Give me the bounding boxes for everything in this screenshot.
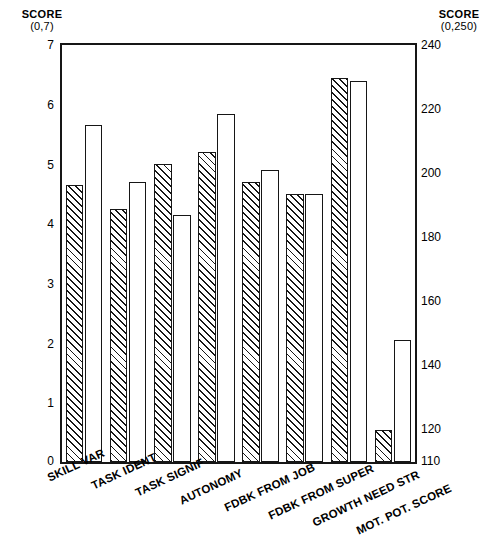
- bar-fdbk-from-job-white: [261, 170, 279, 462]
- right-axis-line: [415, 43, 417, 464]
- right-axis-title-range: (0,250): [420, 20, 498, 32]
- right-tick-120: 120: [421, 423, 465, 435]
- right-tick-200: 200: [421, 167, 465, 179]
- bar-task-ident-white: [129, 182, 147, 462]
- bar-task-signif-hatched: [154, 164, 172, 462]
- left-axis-title: SCORE (0,7): [4, 8, 80, 33]
- left-tick-2: 2: [10, 338, 54, 350]
- right-axis-title: SCORE (0,250): [420, 8, 498, 33]
- left-tick-3: 3: [10, 278, 54, 290]
- bar-autonomy-white: [217, 114, 235, 462]
- right-tick-110: 110: [421, 455, 465, 467]
- right-tick-160: 160: [421, 295, 465, 307]
- bar-fdbk-from-super-white: [305, 194, 323, 462]
- left-axis-title-main: SCORE: [4, 8, 80, 20]
- right-tick-140: 140: [421, 359, 465, 371]
- left-tick-0: 0: [10, 455, 54, 467]
- bar-autonomy-hatched: [198, 152, 216, 462]
- right-tick-240: 240: [421, 39, 465, 51]
- bars-layer: [62, 45, 415, 462]
- right-tick-180: 180: [421, 231, 465, 243]
- left-tick-6: 6: [10, 99, 54, 111]
- bar-fdbk-from-job-hatched: [242, 182, 260, 462]
- right-axis-title-main: SCORE: [420, 8, 498, 20]
- left-tick-5: 5: [10, 159, 54, 171]
- left-axis-title-range: (0,7): [4, 20, 80, 32]
- left-tick-1: 1: [10, 397, 54, 409]
- right-tick-220: 220: [421, 103, 465, 115]
- bar-mot-pot-score-white: [394, 340, 412, 462]
- bar-growth-need-str-white: [350, 81, 368, 462]
- left-tick-4: 4: [10, 218, 54, 230]
- bar-task-signif-white: [173, 215, 191, 462]
- plot-baseline: [60, 462, 417, 464]
- bar-fdbk-from-super-hatched: [286, 194, 304, 462]
- bar-skill-var-white: [85, 125, 103, 462]
- bar-skill-var-hatched: [66, 185, 84, 462]
- bar-growth-need-str-hatched: [331, 78, 349, 462]
- left-tick-7: 7: [10, 39, 54, 51]
- bar-task-ident-hatched: [110, 209, 128, 462]
- bar-mot-pot-score-hatched: [375, 430, 393, 462]
